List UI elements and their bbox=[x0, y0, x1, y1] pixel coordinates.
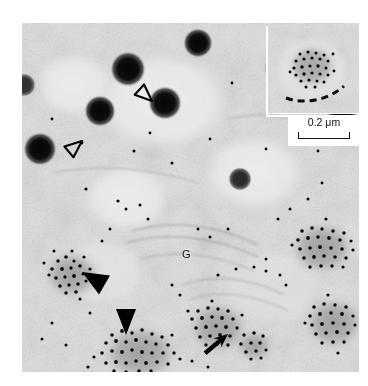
inset-micrograph bbox=[268, 28, 360, 113]
golgi-label: G bbox=[182, 248, 191, 260]
scale-bar-rule bbox=[298, 132, 350, 139]
margin-bottom bbox=[0, 372, 368, 386]
scale-bar-label: 0.2 μm bbox=[288, 116, 360, 128]
margin-left bbox=[0, 0, 22, 386]
margin-right bbox=[359, 0, 368, 386]
figure-root: G bbox=[0, 0, 368, 386]
scale-bar: 0.2 μm bbox=[288, 116, 360, 146]
inset-canvas bbox=[268, 28, 360, 113]
margin-top bbox=[0, 0, 368, 23]
